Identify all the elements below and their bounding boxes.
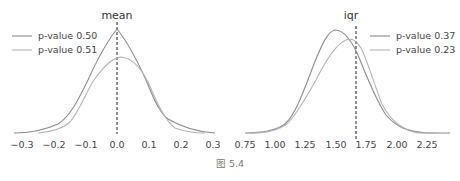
legend-label-p050: p-value 0.50	[38, 30, 97, 41]
iqr-tick: 1.25	[294, 139, 315, 150]
figure: mean p-value 0.50 p-value 0.51 −0.3 −0.2…	[0, 0, 460, 181]
mean-tick: −0.2	[42, 139, 65, 150]
iqr-tick: 1.75	[355, 139, 376, 150]
mean-title: mean	[101, 9, 132, 22]
mean-tick: 0.0	[109, 139, 124, 150]
iqr-tick: 1.50	[325, 139, 346, 150]
iqr-tick: 2.00	[386, 139, 407, 150]
mean-tick: −0.3	[10, 139, 33, 150]
mean-tick: 0.2	[173, 139, 188, 150]
figure-caption: 图 5.4	[0, 156, 460, 170]
iqr-title: iqr	[344, 9, 359, 22]
mean-tick: 0.1	[141, 139, 156, 150]
iqr-tick: 1.00	[264, 139, 285, 150]
iqr-panel: iqr p-value 0.37 p-value 0.23 0.75 1.00 …	[234, 9, 455, 150]
legend-label-p051: p-value 0.51	[38, 44, 97, 55]
mean-curve-p051	[38, 57, 205, 133]
mean-tick: 0.3	[205, 139, 220, 150]
iqr-tick: 2.25	[416, 139, 437, 150]
legend-label-p023: p-value 0.23	[396, 44, 455, 55]
mean-panel: mean p-value 0.50 p-value 0.51 −0.3 −0.2…	[10, 9, 220, 150]
mean-tick: −0.1	[74, 139, 97, 150]
legend-label-p037: p-value 0.37	[396, 30, 455, 41]
iqr-tick: 0.75	[234, 139, 255, 150]
